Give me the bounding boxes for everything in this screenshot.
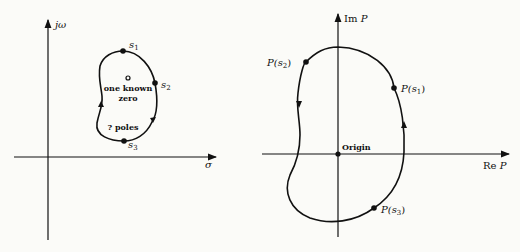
direction-arrow-icon — [401, 121, 407, 128]
p-s1-label: P(s1) — [400, 83, 425, 96]
s2-label: s2 — [161, 79, 171, 92]
p-s3-label: P(s3) — [380, 204, 405, 217]
zero-label-line2: zero — [118, 93, 138, 103]
jw-axis-label: jω — [53, 19, 66, 30]
poles-label: ? poles — [107, 122, 139, 132]
s3-label: s3 — [128, 139, 138, 152]
p-s2-label: P(s2) — [266, 57, 291, 70]
direction-arrow-icon — [98, 101, 104, 107]
point-s1 — [120, 48, 126, 54]
p-contour — [287, 47, 404, 222]
point-s3 — [121, 138, 127, 144]
s-plane-plot: jω σ s1 s2 s3 one known zero ? poles — [14, 19, 216, 240]
zero-label-line1: one known — [104, 83, 153, 93]
diagram-canvas: jω σ s1 s2 s3 one known zero ? poles Im … — [0, 0, 520, 252]
zero-marker-icon — [126, 76, 130, 80]
direction-arrow-icon — [150, 117, 156, 123]
point-p-s2 — [303, 59, 309, 65]
origin-label: Origin — [342, 142, 371, 152]
p-plane-plot: Im P Re P Origin P(s1) P(s2) P(s3) — [262, 13, 509, 237]
s1-label: s1 — [129, 39, 139, 52]
sigma-axis-label: σ — [205, 159, 213, 170]
im-axis-label: Im P — [344, 13, 368, 24]
point-p-s3 — [371, 205, 377, 211]
point-p-s1 — [391, 85, 397, 91]
point-s2 — [152, 80, 158, 86]
origin-point — [335, 151, 340, 156]
re-axis-label: Re P — [483, 160, 507, 171]
